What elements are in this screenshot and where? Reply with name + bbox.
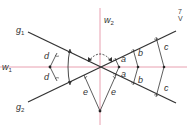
- label-a-lower: a: [121, 69, 126, 79]
- label-b-lower: b: [138, 75, 143, 85]
- label-g2: g2: [16, 102, 25, 113]
- label-g1: g1: [16, 25, 25, 36]
- label-d-upper: d: [44, 51, 50, 61]
- label-c-lower: c: [164, 83, 169, 93]
- corner-line-2: V: [178, 15, 183, 22]
- label-e-right: e: [111, 87, 116, 97]
- label-a-upper: a: [121, 54, 126, 64]
- label-b-upper: b: [138, 48, 143, 58]
- label-w1: w1: [2, 62, 13, 73]
- label-w2: w2: [104, 15, 115, 26]
- label-e-left: e: [83, 87, 88, 97]
- corner-line-1: 7: [178, 8, 183, 15]
- corner-text: 7 V: [178, 8, 183, 22]
- label-d-lower: d: [44, 72, 50, 82]
- point-d: [49, 66, 52, 69]
- label-c-upper: c: [164, 42, 169, 52]
- angle-bisector-diagram: g1 g2 w1 w2 d d a a b b c c e e 7 V: [0, 0, 187, 125]
